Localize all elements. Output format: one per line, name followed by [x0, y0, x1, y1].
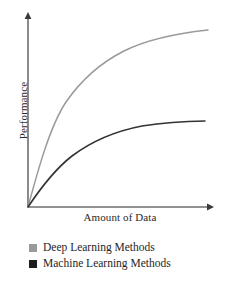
chart-legend: Deep Learning Methods Machine Learning M…: [28, 240, 228, 272]
chart-plot-area: Performance Amount of Data: [0, 0, 243, 232]
x-axis-label: Amount of Data: [28, 212, 212, 223]
legend-item-deep-learning: Deep Learning Methods: [28, 240, 228, 255]
legend-swatch-deep-learning-icon: [29, 244, 37, 252]
legend-label-deep-learning: Deep Learning Methods: [43, 242, 155, 254]
legend-label-machine-learning: Machine Learning Methods: [43, 258, 171, 270]
x-axis-arrow-icon: [207, 204, 214, 211]
legend-item-machine-learning: Machine Learning Methods: [28, 256, 228, 271]
series-line-machine-learning: [28, 121, 205, 207]
legend-swatch-machine-learning-icon: [29, 260, 37, 268]
y-axis-label: Performance: [18, 66, 29, 156]
series-line-deep-learning: [28, 30, 208, 207]
chart-figure: Performance Amount of Data Deep Learning…: [0, 0, 243, 286]
chart-canvas: [0, 0, 243, 232]
y-axis-arrow-icon: [25, 12, 32, 19]
